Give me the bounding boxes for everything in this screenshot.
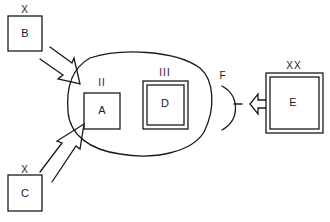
node-b-tag: X (21, 4, 29, 15)
node-f[interactable]: F (219, 70, 242, 130)
node-d[interactable]: III D (143, 67, 188, 129)
node-e-label: E (289, 96, 296, 108)
node-d-label: D (161, 97, 169, 109)
node-c[interactable]: X C (8, 164, 42, 211)
diagram-canvas: X B X C II A III D F XX E (0, 0, 330, 222)
node-e-tag: XX (286, 60, 301, 71)
node-f-label: F (219, 70, 226, 81)
node-b-label: B (21, 27, 28, 39)
node-b[interactable]: X B (8, 4, 42, 51)
node-c-label: C (21, 187, 29, 199)
arrow-b-to-enclosure (40, 47, 80, 84)
node-a[interactable]: II A (84, 77, 120, 129)
arrow-c-to-enclosure (40, 124, 84, 182)
arrow-e-to-f (250, 94, 266, 114)
node-e[interactable]: XX E (266, 60, 323, 133)
node-a-label: A (98, 104, 106, 116)
enclosure-outline (68, 52, 212, 156)
node-d-tag: III (159, 67, 170, 78)
receptor-arc (222, 86, 236, 130)
node-c-tag: X (21, 164, 29, 175)
node-a-tag: II (98, 77, 106, 88)
